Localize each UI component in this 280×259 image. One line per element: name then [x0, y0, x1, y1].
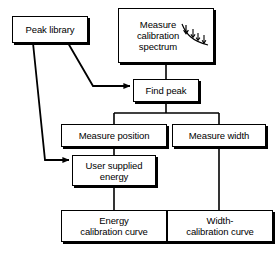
- node-measure-width-label: Measure width: [187, 130, 251, 141]
- node-energy-calibration-curve-label: Energy calibration curve: [78, 215, 149, 237]
- node-find-peak[interactable]: Find peak: [133, 79, 199, 102]
- node-energy-calibration-curve[interactable]: Energy calibration curve: [61, 210, 167, 242]
- node-peak-library-label: Peak library: [24, 24, 77, 35]
- node-user-supplied-energy[interactable]: User supplied energy: [72, 155, 156, 186]
- node-measure-position[interactable]: Measure position: [61, 124, 167, 147]
- spectrum-sketch-icon: [180, 22, 210, 50]
- node-peak-library[interactable]: Peak library: [12, 16, 88, 43]
- node-find-peak-label: Find peak: [144, 85, 189, 96]
- node-measure-position-label: Measure position: [77, 130, 152, 141]
- flowchart-canvas: Peak library Measure calibration spectru…: [0, 0, 280, 259]
- node-width-calibration-curve-label: Width- calibration curve: [184, 215, 255, 237]
- node-measure-calibration-spectrum[interactable]: Measure calibration spectrum: [118, 8, 214, 63]
- node-width-calibration-curve[interactable]: Width- calibration curve: [167, 210, 273, 242]
- node-user-supplied-energy-label: User supplied energy: [84, 160, 145, 182]
- node-measure-width[interactable]: Measure width: [172, 124, 266, 147]
